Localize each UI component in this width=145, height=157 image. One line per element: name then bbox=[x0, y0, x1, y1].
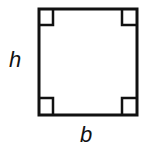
right-angle-marker-bottom-left bbox=[39, 98, 53, 115]
right-angle-marker-top-left bbox=[39, 9, 53, 25]
square-diagram bbox=[0, 0, 145, 157]
height-label: h bbox=[9, 47, 21, 73]
base-label: b bbox=[80, 122, 92, 148]
right-angle-marker-top-right bbox=[122, 9, 137, 25]
right-angle-marker-bottom-right bbox=[122, 98, 137, 115]
